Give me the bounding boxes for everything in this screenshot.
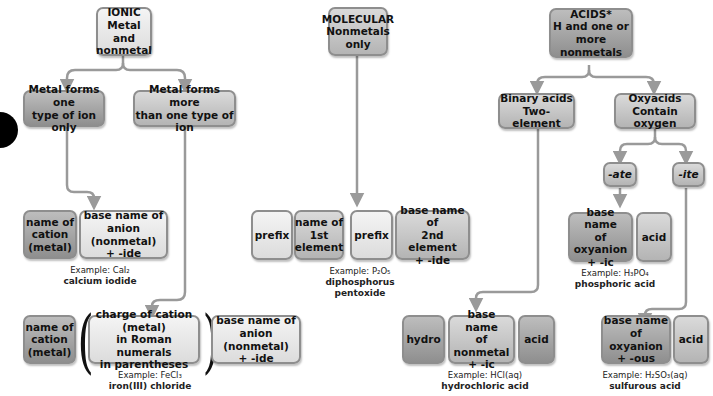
ite-example: Example: H₂SO₃(aq) sulfurous acid (590, 370, 700, 392)
binary-example-name: hydrochloric acid (430, 381, 540, 392)
molecular-example-name: diphosphorus pentoxide (300, 277, 420, 300)
ate-acid-label: acid (642, 231, 666, 244)
molecular-first-element-box: name of 1st element (294, 210, 344, 260)
molecular-prefix2-label: prefix (354, 229, 388, 242)
ite-suffix-label: -ite (678, 168, 698, 181)
ate-example-formula: Example: H₃PO₄ (565, 268, 665, 279)
ionic-header-label: IONIC Metal and nonmetal (96, 6, 152, 56)
binary-hydro-box: hydro (402, 315, 445, 364)
binary-acid-box: acid (518, 315, 555, 364)
metal-one-ion-box: Metal forms one type of ion only (23, 90, 105, 127)
binary-example-formula: Example: HCl(aq) (430, 370, 540, 381)
ite-acid-label: acid (679, 333, 703, 346)
ionic-more-cation-box: name of cation (metal) (23, 315, 76, 364)
ionic-more-example: Example: FeCl₃ iron(III) chloride (95, 370, 205, 392)
ionic-one-example: Example: CaI₂ calcium iodide (40, 265, 160, 287)
ionic-more-cation-label: name of cation (metal) (25, 321, 73, 359)
ionic-one-anion-box: base name of anion (nonmetal) + -ide (79, 210, 168, 259)
ionic-more-anion-label: base name of anion (nonmetal) + -ide (213, 314, 299, 364)
ionic-one-example-name: calcium iodide (40, 276, 160, 287)
ate-suffix-label: -ate (608, 168, 632, 181)
ionic-one-cation-box: name of cation (metal) (23, 210, 77, 259)
ate-example: Example: H₃PO₄ phosphoric acid (565, 268, 665, 290)
ionic-one-example-formula: Example: CaI₂ (40, 265, 160, 276)
ionic-more-anion-box: base name of anion (nonmetal) + -ide (211, 315, 301, 364)
ate-example-name: phosphoric acid (565, 279, 665, 290)
ionic-more-example-formula: Example: FeCl₃ (95, 370, 205, 381)
ate-base-label: base name of oxyanion + -ic (570, 206, 631, 269)
ite-example-formula: Example: H₂SO₃(aq) (590, 370, 700, 381)
molecular-example: Example: P₂O₅ diphosphorus pentoxide (300, 266, 420, 299)
molecular-prefix2-box: prefix (350, 210, 393, 260)
acids-header-box: ACIDS* H and one or more nonmetals (549, 8, 633, 58)
molecular-header-box: MOLECULAR Nonmetals only (328, 7, 388, 56)
ite-base-box: base name of oxyanion + -ous (601, 315, 671, 364)
oxyacids-box: Oxyacids Contain oxygen (614, 93, 696, 129)
binary-base-box: base name of nonmetal + -ic (448, 315, 515, 364)
binary-example: Example: HCl(aq) hydrochloric acid (430, 370, 540, 392)
ionic-header-box: IONIC Metal and nonmetal (96, 7, 152, 56)
molecular-second-element-label: base name of 2nd element + -ide (397, 204, 468, 267)
binary-acids-box: Binary acids Two-element (498, 93, 575, 129)
ite-example-name: sulfurous acid (590, 381, 700, 392)
molecular-first-element-label: name of 1st element (295, 216, 343, 254)
ite-suffix-box: -ite (672, 162, 705, 187)
ate-suffix-box: -ate (603, 162, 637, 187)
ite-base-label: base name of oxyanion + -ous (603, 314, 669, 364)
molecular-prefix1-label: prefix (255, 229, 289, 242)
ite-acid-box: acid (673, 315, 709, 364)
molecular-prefix1-box: prefix (251, 210, 293, 260)
acids-header-label: ACIDS* H and one or more nonmetals (551, 8, 631, 58)
ionic-one-cation-label: name of cation (metal) (26, 216, 74, 254)
ionic-more-example-name: iron(III) chloride (95, 381, 205, 392)
metal-multi-ion-label: Metal forms more than one type of ion (135, 83, 234, 133)
metal-multi-ion-box: Metal forms more than one type of ion (133, 90, 236, 127)
ate-base-box: base name of oxyanion + -ic (568, 212, 633, 262)
binary-base-label: base name of nonmetal + -ic (450, 308, 513, 371)
binary-acids-label: Binary acids Two-element (500, 92, 573, 130)
ionic-charge-box: charge of cation (metal) in Roman numera… (88, 315, 200, 364)
binary-acid-label: acid (524, 333, 548, 346)
ionic-charge-label: charge of cation (metal) in Roman numera… (90, 308, 198, 371)
ionic-one-anion-label: base name of anion (nonmetal) + -ide (81, 209, 166, 259)
oxyacids-label: Oxyacids Contain oxygen (616, 92, 694, 130)
metal-one-ion-label: Metal forms one type of ion only (25, 83, 103, 133)
binary-hydro-label: hydro (406, 333, 440, 346)
molecular-example-formula: Example: P₂O₅ (300, 266, 420, 277)
ate-acid-box: acid (636, 212, 672, 262)
molecular-header-label: MOLECULAR Nonmetals only (322, 13, 394, 51)
molecular-second-element-box: base name of 2nd element + -ide (395, 210, 470, 260)
